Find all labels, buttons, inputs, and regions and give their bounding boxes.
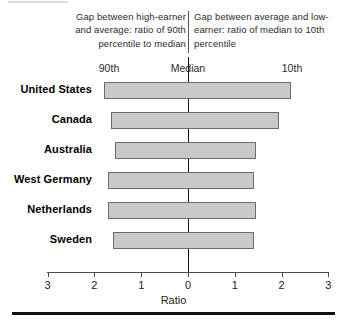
axis-tick-label: 3 — [38, 279, 58, 291]
diverging-bar — [113, 232, 253, 249]
axis-tick-label: 1 — [225, 279, 245, 291]
axis-tick — [48, 272, 49, 277]
bar-row: West Germany — [0, 170, 347, 200]
bar-row: Canada — [0, 110, 347, 140]
bar-row-label: West Germany — [0, 173, 92, 185]
bar-row: Sweden — [0, 230, 347, 260]
axis-tick-label: 3 — [318, 279, 338, 291]
bar-row-label: Canada — [0, 113, 92, 125]
sublabel-90th: 90th — [88, 62, 130, 74]
axis-tick-label: 1 — [131, 279, 151, 291]
axis-tick — [141, 272, 142, 277]
bar-rows: United StatesCanadaAustraliaWest Germany… — [0, 80, 347, 260]
top-edge-artifact — [8, 1, 68, 3]
axis-tick-label: 2 — [84, 279, 104, 291]
x-axis: 3210123 — [0, 272, 347, 273]
bottom-rule — [12, 312, 335, 315]
bar-row-label: Sweden — [0, 233, 92, 245]
diverging-bar — [115, 142, 255, 159]
bar-row: United States — [0, 80, 347, 110]
axis-tick — [282, 272, 283, 277]
bar-row-label: Netherlands — [0, 203, 92, 215]
axis-tick — [94, 272, 95, 277]
axis-tick — [188, 272, 189, 277]
diverging-bar — [108, 172, 253, 189]
axis-tick-label: 2 — [272, 279, 292, 291]
left-caption: Gap between high-earner and average: rat… — [58, 10, 186, 50]
diverging-bar — [104, 82, 291, 99]
bar-row: Netherlands — [0, 200, 347, 230]
diverging-bar — [111, 112, 279, 129]
caption-divider — [188, 11, 189, 53]
axis-tick — [235, 272, 236, 277]
axis-tick-label: 0 — [178, 279, 198, 291]
axis-title: Ratio — [0, 294, 347, 306]
bar-row-label: United States — [0, 83, 92, 95]
diverging-bar — [108, 202, 255, 219]
chart-figure: Gap between high-earner and average: rat… — [0, 0, 347, 324]
bar-row: Australia — [0, 140, 347, 170]
sublabel-10th: 10th — [272, 62, 312, 74]
axis-tick — [328, 272, 329, 277]
bar-row-label: Australia — [0, 143, 92, 155]
right-caption: Gap between average and low-earner: rati… — [194, 10, 334, 50]
